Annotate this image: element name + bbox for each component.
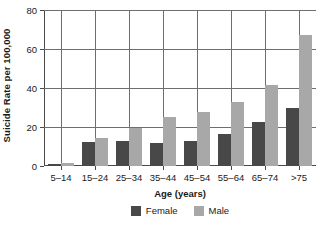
legend-swatch-female — [131, 206, 141, 216]
y-tick-label: 40 — [26, 83, 37, 94]
bar-group — [180, 10, 214, 166]
x-tick-label: 55–64 — [218, 172, 244, 183]
x-tick-label: 65–74 — [252, 172, 278, 183]
legend-entry-female: Female — [131, 205, 178, 216]
bar-female — [184, 141, 197, 166]
bar-female — [82, 142, 95, 166]
x-tick-label: >75 — [291, 172, 307, 183]
bar-male — [231, 102, 244, 166]
bar-male — [197, 112, 210, 166]
bar-group — [146, 10, 180, 166]
y-tick-label: 60 — [26, 44, 37, 55]
y-tick-mark — [40, 166, 44, 167]
bar-male — [95, 138, 108, 166]
bar-male — [61, 163, 74, 166]
bar-female — [116, 141, 129, 166]
x-tick-label: 45–54 — [184, 172, 210, 183]
x-tick-label: 15–24 — [82, 172, 108, 183]
bar-male — [129, 128, 142, 166]
bar-group — [112, 10, 146, 166]
x-tick-mark — [61, 166, 62, 170]
x-tick-mark — [265, 166, 266, 170]
chart-legend: FemaleMale — [44, 205, 316, 216]
bar-female — [252, 122, 265, 166]
x-axis-title: Age (years) — [44, 188, 316, 199]
bar-female — [286, 108, 299, 167]
x-tick-mark — [197, 166, 198, 170]
bar-female — [150, 143, 163, 166]
bar-male — [265, 85, 278, 166]
legend-label: Male — [209, 205, 230, 216]
bar-female — [48, 164, 61, 166]
x-tick-label: 35–44 — [150, 172, 176, 183]
legend-swatch-male — [194, 206, 204, 216]
bar-series-container — [44, 10, 316, 166]
legend-label: Female — [146, 205, 178, 216]
bar-male — [299, 35, 312, 166]
suicide-rate-bar-chart: Suicide Rate per 100,000 020406080 5–141… — [0, 0, 326, 227]
x-tick-mark — [129, 166, 130, 170]
x-tick-mark — [163, 166, 164, 170]
legend-entry-male: Male — [194, 205, 230, 216]
plot-area: 020406080 5–1415–2425–3435–4445–5455–646… — [44, 10, 316, 166]
y-tick-label: 80 — [26, 5, 37, 16]
x-tick-label: 5–14 — [50, 172, 71, 183]
x-tick-mark — [231, 166, 232, 170]
bar-female — [218, 134, 231, 166]
x-tick-mark — [299, 166, 300, 170]
bar-group — [44, 10, 78, 166]
y-axis-title-text: Suicide Rate per 100,000 — [2, 28, 13, 142]
y-axis-title: Suicide Rate per 100,000 — [0, 0, 14, 170]
bar-group — [248, 10, 282, 166]
x-tick-label: 25–34 — [116, 172, 142, 183]
x-tick-mark — [95, 166, 96, 170]
y-tick-label: 0 — [32, 161, 37, 172]
bar-group — [282, 10, 316, 166]
bar-male — [163, 117, 176, 166]
y-tick-label: 20 — [26, 122, 37, 133]
bar-group — [214, 10, 248, 166]
bar-group — [78, 10, 112, 166]
